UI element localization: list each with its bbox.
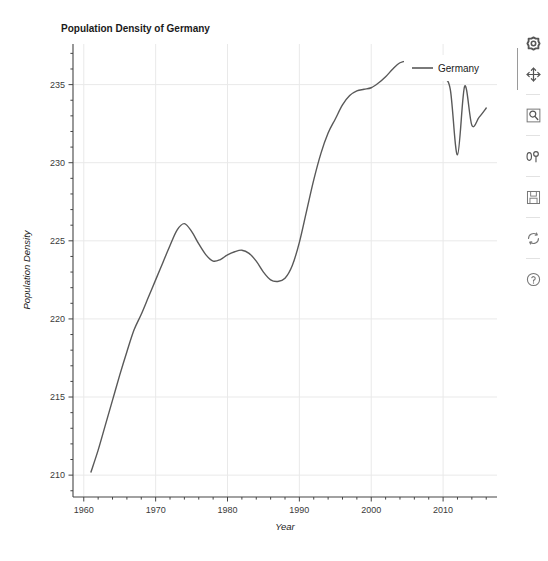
plot-area-background — [73, 44, 497, 497]
refresh-icon — [525, 230, 542, 247]
toolbar-separator — [526, 135, 540, 136]
figure-toolbar[interactable] — [518, 32, 548, 290]
save-button[interactable] — [522, 186, 544, 208]
x-tick-label: 1970 — [146, 505, 166, 515]
y-tick-label: 235 — [50, 80, 65, 90]
x-tick-labels: 196019701980199020002010 — [74, 505, 453, 515]
pan-button[interactable] — [522, 63, 544, 85]
home-reset-button[interactable] — [522, 32, 544, 54]
toolbar-separator — [526, 94, 540, 95]
x-axis-label: Year — [275, 521, 295, 532]
x-tick-label: 1990 — [289, 505, 309, 515]
x-tick-label: 1980 — [217, 505, 237, 515]
toolbar-separator — [526, 217, 540, 218]
y-tick-label: 215 — [50, 392, 65, 402]
refresh-button[interactable] — [522, 227, 544, 249]
zoom-button[interactable] — [522, 104, 544, 126]
x-tick-label: 2010 — [433, 505, 453, 515]
question-mark-icon — [525, 271, 542, 288]
matplotlib-figure: 196019701980199020002010 210215220225230… — [0, 0, 548, 561]
chart-title: Population Density of Germany — [61, 23, 210, 34]
x-tick-label: 1960 — [74, 505, 94, 515]
y-tick-label: 230 — [50, 158, 65, 168]
x-tick-label: 2000 — [361, 505, 381, 515]
y-tick-label: 210 — [50, 470, 65, 480]
sliders-icon — [525, 148, 542, 165]
toolbar-separator — [526, 258, 540, 259]
chart-canvas[interactable]: 196019701980199020002010 210215220225230… — [0, 0, 548, 561]
help-button[interactable] — [522, 268, 544, 290]
home-icon — [525, 35, 542, 52]
chart-legend[interactable]: Germany — [404, 55, 497, 81]
magnifier-icon — [525, 107, 542, 124]
configure-subplots-button[interactable] — [522, 145, 544, 167]
legend-label-germany: Germany — [438, 63, 479, 74]
floppy-disk-icon — [525, 189, 542, 206]
move-icon — [525, 66, 542, 83]
y-tick-label: 220 — [50, 314, 65, 324]
toolbar-separator — [526, 176, 540, 177]
y-tick-label: 225 — [50, 236, 65, 246]
y-axis-label: Population Density — [21, 229, 32, 309]
y-tick-labels: 210215220225230235 — [50, 80, 65, 481]
